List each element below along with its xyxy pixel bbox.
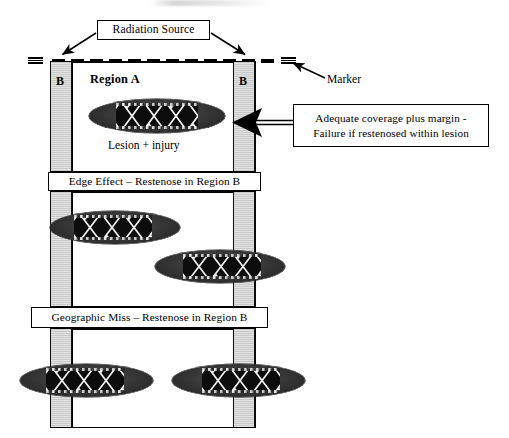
lesion-far-right <box>172 364 305 397</box>
stent-edge-top <box>202 368 280 371</box>
row2-top-border <box>50 191 256 193</box>
down-left-arrow-icon <box>63 33 97 55</box>
adequate-coverage-callout: Adequate coverage plus margin - Failure … <box>293 104 489 147</box>
region-b-label-left: B <box>56 74 64 89</box>
down-right-arrow-icon <box>211 33 245 55</box>
stent-edge-bottom <box>183 276 261 279</box>
stent-edge-top <box>183 254 261 257</box>
stent-edge-bottom <box>74 237 152 240</box>
marker-label: Marker <box>327 73 361 86</box>
up-left-arrow-icon <box>293 63 325 78</box>
geographic-miss-callout: Geographic Miss – Restenose in Region B <box>31 307 268 328</box>
stent-edge-top <box>46 368 124 371</box>
row3-bottom-border <box>50 427 256 429</box>
stent-mesh <box>46 368 124 393</box>
lesion-left-overhang <box>50 211 180 244</box>
diagram-canvas: Radiation Source Marker B B Region A <box>0 0 509 438</box>
marker-right-icon <box>281 57 296 64</box>
lesion-right-overhang <box>155 250 285 283</box>
region-b-band-right-row2 <box>233 192 255 306</box>
row1-top-border <box>50 61 256 63</box>
stent-mesh <box>183 254 261 279</box>
region-b-band-left-row2 <box>50 192 72 306</box>
marker-left-icon <box>28 57 43 64</box>
radiation-source-callout: Radiation Source <box>97 20 210 40</box>
stent-mesh <box>74 215 152 240</box>
region-b-label-right: B <box>239 74 247 89</box>
lesion-centered <box>89 99 225 133</box>
lesion-injury-label: Lesion + injury <box>108 139 180 152</box>
stent-edge-top <box>74 215 152 218</box>
stent-edge-bottom <box>202 390 280 393</box>
stent-edge-bottom <box>116 126 198 129</box>
stent-edge-bottom <box>46 390 124 393</box>
lesion-far-left <box>20 364 153 397</box>
region-a-label: Region A <box>90 72 140 87</box>
row3-top-border <box>50 328 256 330</box>
stent-edge-top <box>116 103 198 106</box>
stent-mesh <box>202 368 280 393</box>
stent-mesh <box>116 103 198 129</box>
scan-artifact <box>150 0 270 6</box>
edge-effect-callout: Edge Effect – Restenose in Region B <box>48 172 261 191</box>
